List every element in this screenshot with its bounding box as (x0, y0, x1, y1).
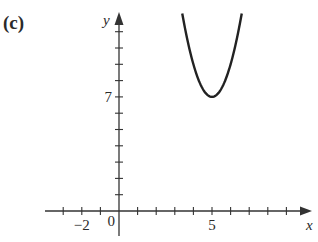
x-tick-labels: −205 (74, 213, 216, 233)
x-axis-arrow-icon (300, 207, 312, 216)
y-tick-labels: 7 (105, 89, 113, 105)
x-tick-label: 0 (108, 213, 116, 229)
parabola-chart: (c) x y −205 7 (0, 0, 318, 242)
axes (45, 12, 312, 236)
y-axis-arrow-icon (115, 12, 124, 25)
y-tick-label: 7 (105, 89, 113, 105)
panel-label: (c) (3, 12, 24, 34)
x-tick-label: 5 (208, 217, 216, 233)
parabola-curve (182, 13, 242, 96)
x-tick-label: −2 (74, 217, 90, 233)
y-axis-label: y (101, 12, 110, 28)
x-axis-label: x (305, 217, 313, 233)
